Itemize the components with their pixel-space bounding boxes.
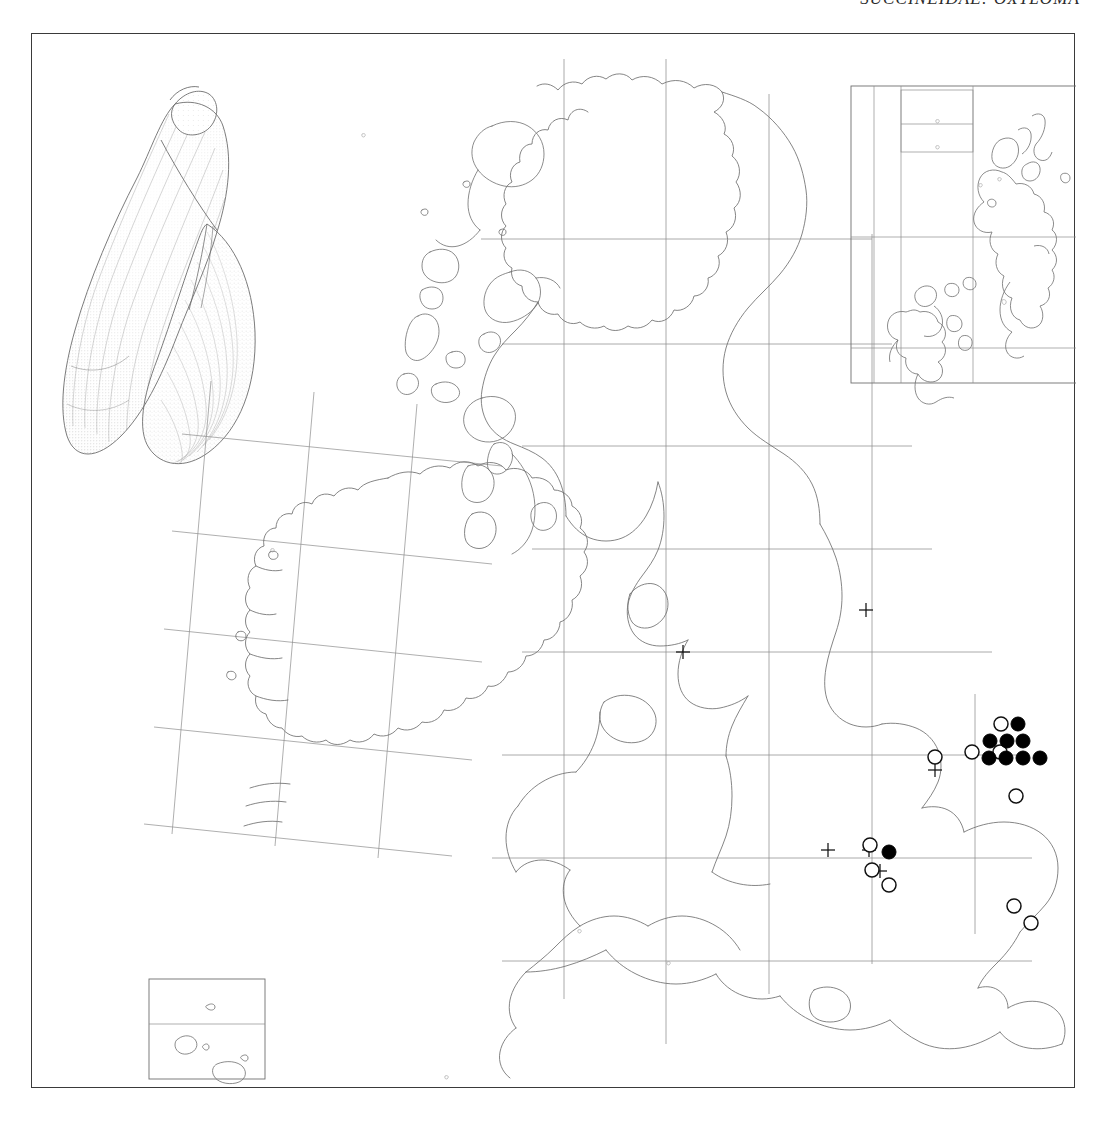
coastline-hebrides <box>397 122 560 555</box>
record-symbols-filled <box>882 717 1047 859</box>
filled-circle-record <box>999 751 1013 765</box>
coastline-great-britain <box>481 74 1065 1078</box>
filled-circle-record <box>982 751 996 765</box>
channel-islands-inset <box>149 979 265 1084</box>
minor-island-marks <box>271 134 670 1079</box>
plus-record <box>928 763 942 777</box>
filled-circle-record <box>1016 751 1030 765</box>
filled-circle-record <box>1011 717 1025 731</box>
plate-frame <box>31 33 1075 1088</box>
plus-record <box>821 843 835 857</box>
shetland-orkney-inset <box>851 86 1076 404</box>
plus-record <box>859 603 873 617</box>
record-symbols-plus <box>676 603 942 878</box>
filled-circle-record <box>1033 751 1047 765</box>
open-circle-record <box>863 838 877 852</box>
filled-circle-record <box>882 845 896 859</box>
open-circle-record <box>1024 916 1038 930</box>
open-circle-record <box>928 750 942 764</box>
open-circle-record <box>1007 899 1021 913</box>
plus-record <box>873 864 887 878</box>
filled-circle-record <box>1016 734 1030 748</box>
page-running-head: SUCCINEIDAE: OXYLOMA <box>0 0 1080 9</box>
plus-record <box>676 645 690 659</box>
open-circle-record <box>965 745 979 759</box>
open-circle-record <box>994 717 1008 731</box>
shell-drawing <box>57 74 307 474</box>
coastline-ireland <box>227 462 588 826</box>
open-circle-record <box>1009 789 1023 803</box>
open-circle-record <box>993 745 1007 759</box>
gb-grid <box>481 59 1032 1044</box>
plus-record <box>862 843 876 857</box>
open-circle-record <box>882 878 896 892</box>
filled-circle-record <box>983 734 997 748</box>
record-symbols-open <box>863 717 1038 930</box>
open-circle-record <box>865 863 879 877</box>
filled-circle-record <box>1000 734 1014 748</box>
